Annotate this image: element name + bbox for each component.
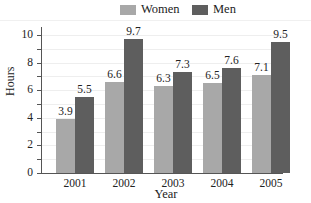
bar-women-2003: [154, 86, 173, 173]
x-tick-label: 2004: [207, 177, 237, 189]
bar-value-label: 9.7: [119, 25, 149, 37]
bar-men-2003: [173, 72, 192, 173]
bar-women-2004: [203, 83, 222, 173]
y-tick-label: 0: [13, 166, 33, 178]
y-tick: [37, 173, 41, 174]
y-tick: [37, 49, 41, 50]
bar-women-2002: [105, 82, 124, 173]
y-tick: [37, 118, 41, 119]
y-tick: [37, 159, 41, 160]
y-axis-title: Hours: [3, 67, 18, 96]
y-tick: [37, 35, 41, 36]
bar-men-2001: [75, 97, 94, 173]
y-tick: [37, 132, 41, 133]
gridline: [42, 49, 284, 50]
bar-women-2005: [252, 75, 271, 173]
bar-value-label: 9.5: [266, 28, 296, 40]
y-tick-label: 4: [13, 111, 33, 123]
gridline: [42, 35, 284, 36]
x-axis-line: [41, 173, 283, 174]
x-tick-label: 2001: [60, 177, 90, 189]
bar-value-label: 7.6: [217, 54, 247, 66]
y-tick: [37, 145, 41, 146]
y-tick-label: 2: [13, 138, 33, 150]
x-tick-label: 2005: [256, 177, 286, 189]
bar-value-label: 7.3: [168, 58, 198, 70]
y-tick: [37, 76, 41, 77]
bar-men-2004: [222, 68, 241, 173]
bar-men-2005: [271, 42, 290, 173]
x-tick-label: 2002: [109, 177, 139, 189]
bar-men-2002: [124, 39, 143, 173]
plot-area: 02468103.95.520016.69.720026.37.320036.5…: [0, 0, 311, 203]
y-tick: [37, 90, 41, 91]
bar-value-label: 5.5: [70, 83, 100, 95]
y-tick: [37, 104, 41, 105]
y-tick-label: 10: [13, 28, 33, 40]
y-tick: [37, 63, 41, 64]
bar-women-2001: [56, 119, 75, 173]
x-axis-title: Year: [136, 187, 196, 202]
y-axis-line: [41, 27, 42, 173]
